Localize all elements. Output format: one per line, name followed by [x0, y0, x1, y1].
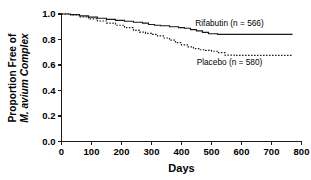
x-tick-label: 600	[234, 146, 250, 157]
x-tick-label: 700	[264, 146, 280, 157]
y-tick-label: 0.6	[42, 59, 55, 70]
y-axis-title-line1: Proportion Free of	[7, 33, 18, 122]
x-tick-label: 200	[114, 146, 130, 157]
x-tick-label: 0	[59, 146, 64, 157]
y-tick-label: 0.4	[42, 85, 56, 96]
x-axis-tick-group: 0100200300400500600700800	[59, 142, 310, 157]
y-axis-tick-group: 0.00.20.40.60.81.0	[42, 8, 61, 147]
x-tick-label: 100	[84, 146, 100, 157]
x-tick-label: 400	[174, 146, 190, 157]
x-tick-label: 300	[144, 146, 160, 157]
x-tick-label: 800	[294, 146, 310, 157]
kaplan-meier-chart: 0.00.20.40.60.81.0 010020030040050060070…	[0, 0, 311, 180]
chart-canvas: 0.00.20.40.60.81.0 010020030040050060070…	[0, 0, 311, 180]
y-tick-label: 0.8	[42, 34, 55, 45]
x-axis-title: Days	[168, 162, 195, 174]
y-tick-label: 0.0	[42, 136, 55, 147]
y-tick-label: 1.0	[42, 8, 55, 19]
y-tick-label: 0.2	[42, 110, 55, 121]
series-label-rifabutin: Rifabutin (n = 566)	[195, 18, 264, 28]
series-label-placebo: Placebo (n = 580)	[197, 57, 263, 67]
x-tick-label: 500	[204, 146, 220, 157]
y-axis-title-line2: M. avium Complex	[19, 32, 30, 123]
